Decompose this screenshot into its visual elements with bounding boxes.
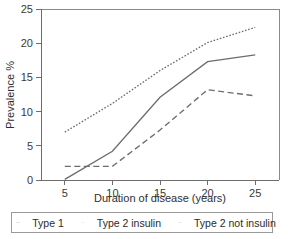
legend-item-type-2-insulin: Type 2 insulin	[73, 217, 161, 229]
legend-swatch-solid-icon	[8, 222, 28, 223]
series-line-type-1	[65, 55, 255, 179]
legend-label-type-1: Type 1	[32, 217, 64, 229]
series-line-type-2-not-insulin	[65, 90, 255, 167]
legend-swatch-dotted-icon	[73, 222, 93, 223]
legend-item-type-1: Type 1	[8, 217, 64, 229]
legend-label-type-2-insulin: Type 2 insulin	[97, 217, 161, 229]
y-axis-title: Prevalence %	[4, 61, 16, 129]
plot-frame	[41, 9, 279, 180]
legend-swatch-dashed-icon	[170, 222, 190, 223]
chart-figure: 0 5 10 15 20 25 Prevalence % 5 10 15 20 …	[0, 0, 288, 239]
plot-area: 0 5 10 15 20 25 Prevalence % 5 10 15 20 …	[0, 0, 288, 205]
y-tick-label-15: 15	[21, 71, 33, 83]
y-axis-ticks	[36, 9, 41, 180]
legend-label-type-2-not-insulin: Type 2 not insulin	[194, 217, 276, 229]
x-axis-title: Duration of disease (years)	[94, 192, 226, 204]
y-tick-label-5: 5	[27, 140, 33, 152]
x-axis-title-svg: Duration of disease (years)	[0, 183, 288, 205]
y-tick-label-20: 20	[21, 37, 33, 49]
line-chart-svg: 0 5 10 15 20 25 Prevalence % 5 10 15 20 …	[0, 0, 288, 205]
series-line-type-2-insulin	[65, 27, 255, 132]
chart-legend: Type 1 Type 2 insulin Type 2 not insulin	[11, 212, 273, 233]
y-tick-label-10: 10	[21, 106, 33, 118]
y-tick-label-25: 25	[21, 3, 33, 15]
legend-item-type-2-not-insulin: Type 2 not insulin	[170, 217, 276, 229]
